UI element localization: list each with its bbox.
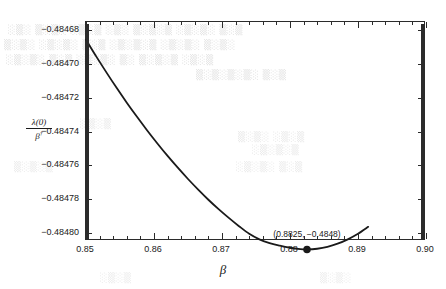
y-tick-minor [86,99,89,100]
y-tick-minor [86,31,89,32]
x-tick-major-top [154,22,155,28]
x-tick-minor-top [181,22,182,25]
x-tick-minor-top [263,22,264,25]
y-tick-minor-right [421,31,424,32]
x-tick-minor [236,236,237,239]
x-tick-minor-top [304,22,305,25]
y-tick-label: −0.48474 [0,126,79,136]
data-curve [86,40,368,250]
x-tick-major [290,233,291,239]
x-tick-minor-top [276,22,277,25]
x-tick-minor [100,236,101,239]
x-tick-minor [181,236,182,239]
minimum-point-marker[interactable] [303,246,311,254]
x-tick-minor [249,236,250,239]
y-tick-label: −0.48478 [0,193,79,203]
x-tick-minor [168,236,169,239]
x-axis-title: β [0,262,446,278]
x-tick-major-top [426,22,427,28]
x-tick-minor [317,236,318,239]
y-tick-label: −0.48472 [0,92,79,102]
x-tick-label: 0.89 [348,244,366,254]
x-tick-minor-top [331,22,332,25]
y-tick-minor-right [421,99,424,100]
x-tick-minor-top [372,22,373,25]
x-tick-minor [113,236,114,239]
x-tick-minor-top [385,22,386,25]
y-tick-minor [86,233,89,234]
x-tick-minor-top [100,22,101,25]
y-tick-label: −0.48480 [0,227,79,237]
y-tick-minor [86,24,89,25]
x-tick-minor [127,236,128,239]
y-tick-minor-right [421,200,424,201]
x-tick-minor [399,236,400,239]
y-tick-minor [86,200,89,201]
x-tick-minor-top [208,22,209,25]
x-tick-minor [412,236,413,239]
x-tick-major-top [290,22,291,28]
x-tick-label: 0.85 [76,244,94,254]
x-tick-minor-top [168,22,169,25]
x-tick-minor-top [344,22,345,25]
y-tick-minor-right [421,65,424,66]
x-tick-major [154,233,155,239]
figure-canvas: ░▒░ ▒░▒░ ░▒░▒ ░▒░ ▒░▒░▒ ░▒░▒░ ▒░▒ ▒░▒░ ░… [0,0,446,289]
x-tick-major [358,233,359,239]
x-tick-minor [344,236,345,239]
x-tick-minor [140,236,141,239]
x-tick-minor [208,236,209,239]
y-tick-minor [86,65,89,66]
x-tick-minor-top [127,22,128,25]
x-tick-label: 0.86 [144,244,162,254]
y-tick-minor-right [421,233,424,234]
x-tick-minor [372,236,373,239]
x-tick-minor-top [399,22,400,25]
y-tick-minor [86,166,89,167]
plot-frame: (0.8825, −0.4848) [85,21,425,240]
y-tick-label: −0.48476 [0,159,79,169]
x-tick-minor [276,236,277,239]
x-tick-major [222,233,223,239]
x-tick-minor [385,236,386,239]
curve-layer [86,22,426,241]
y-tick-minor-right [421,132,424,133]
x-tick-label: 0.87 [212,244,230,254]
x-tick-label: 0.90 [416,244,434,254]
x-tick-minor [304,236,305,239]
x-tick-minor-top [249,22,250,25]
x-tick-major-top [358,22,359,28]
x-tick-minor [263,236,264,239]
x-tick-minor-top [317,22,318,25]
y-tick-label: −0.48468 [0,24,79,34]
x-tick-minor-top [195,22,196,25]
x-tick-major [426,233,427,239]
y-tick-label: −0.48470 [0,58,79,68]
y-tick-minor-right [421,24,424,25]
x-tick-minor-top [236,22,237,25]
x-tick-major-top [222,22,223,28]
x-tick-minor [195,236,196,239]
y-tick-minor-right [421,166,424,167]
x-tick-minor [331,236,332,239]
x-tick-minor-top [140,22,141,25]
x-tick-minor-top [113,22,114,25]
x-tick-minor-top [412,22,413,25]
y-tick-minor [86,132,89,133]
x-tick-label: 0.88 [280,244,298,254]
